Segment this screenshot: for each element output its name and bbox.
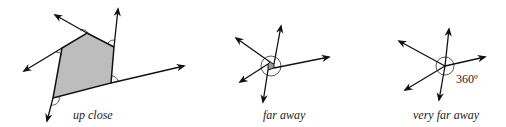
- caption-up-close: up close: [73, 108, 113, 123]
- pentagon-up-close: [24, 9, 184, 121]
- point-very-far-away: [399, 29, 485, 100]
- angle-label-360: 360º: [456, 72, 478, 87]
- pentagon-far-away: [236, 26, 329, 102]
- caption-very-far-away: very far away: [413, 108, 479, 123]
- caption-far-away: far away: [263, 108, 305, 123]
